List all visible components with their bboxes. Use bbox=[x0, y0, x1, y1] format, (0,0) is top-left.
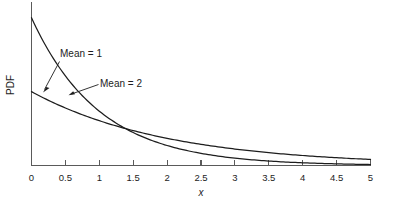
exponential-pdf-figure: 0 0.5 1 1.5 2 2.5 3 3.5 4 4.5 5 x PDF Me… bbox=[0, 0, 400, 204]
x-tick-label-10: 5 bbox=[368, 172, 373, 183]
annotation-mean-2-arrow-icon bbox=[69, 91, 76, 95]
chart-canvas: 0 0.5 1 1.5 2 2.5 3 3.5 4 4.5 5 x PDF Me… bbox=[0, 0, 400, 204]
x-tick-label-8: 4 bbox=[300, 172, 305, 183]
y-axis-title: PDF bbox=[5, 75, 16, 95]
x-tick-label-6: 3 bbox=[232, 172, 237, 183]
x-tick-label-9: 4.5 bbox=[330, 172, 343, 183]
annotation-mean-1-leader bbox=[45, 62, 60, 90]
annotation-mean-1-label: Mean = 1 bbox=[60, 48, 102, 59]
x-tick-label-1: 0.5 bbox=[59, 172, 72, 183]
curve-mean-2 bbox=[32, 92, 371, 160]
x-tick-label-5: 2.5 bbox=[194, 172, 207, 183]
x-axis-ticks bbox=[32, 160, 371, 166]
curve-mean-1 bbox=[32, 18, 371, 165]
x-axis-tick-labels: 0 0.5 1 1.5 2 2.5 3 3.5 4 4.5 5 bbox=[29, 172, 373, 183]
x-axis-title: x bbox=[198, 187, 205, 198]
x-tick-label-4: 2 bbox=[164, 172, 169, 183]
x-tick-label-3: 1.5 bbox=[127, 172, 140, 183]
x-tick-label-7: 3.5 bbox=[262, 172, 275, 183]
annotation-mean-2-label: Mean = 2 bbox=[100, 78, 142, 89]
x-tick-label-0: 0 bbox=[29, 172, 34, 183]
x-tick-label-2: 1 bbox=[97, 172, 102, 183]
annotation-mean-1-arrow-icon bbox=[43, 87, 50, 93]
